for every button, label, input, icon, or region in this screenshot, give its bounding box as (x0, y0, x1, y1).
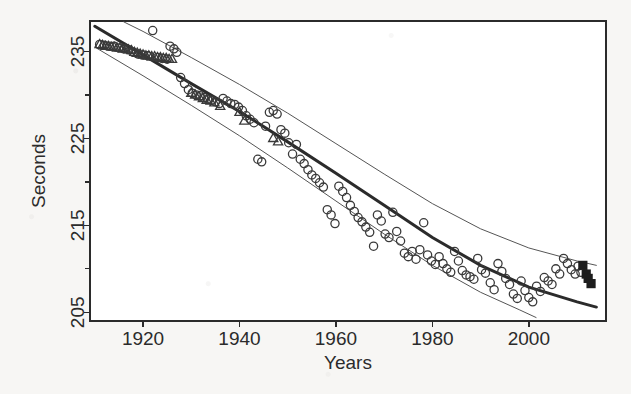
x-tick-label: 1920 (122, 328, 164, 349)
scatter-plot-figure: 19201940196019802000235225215205YearsSec… (0, 0, 631, 394)
x-tick-label: 1980 (411, 328, 453, 349)
y-tick-label: 205 (68, 296, 89, 328)
y-tick-label: 235 (68, 36, 89, 68)
x-axis-title: Years (324, 352, 372, 373)
y-tick-label: 215 (68, 209, 89, 241)
data-point (578, 261, 587, 270)
x-tick-label: 2000 (508, 328, 550, 349)
x-tick-label: 1960 (315, 328, 357, 349)
y-axis-title: Seconds (28, 134, 49, 208)
x-tick-label: 1940 (218, 328, 260, 349)
y-tick-label: 225 (68, 123, 89, 155)
data-point (586, 279, 595, 288)
plot-frame (90, 21, 606, 321)
